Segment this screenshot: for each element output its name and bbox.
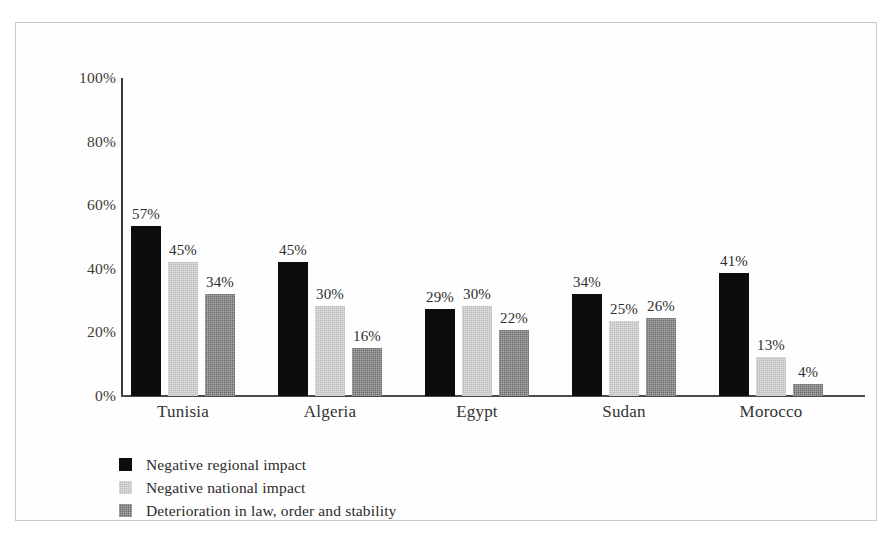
legend-item-0[interactable]: Negative regional impact (119, 453, 397, 476)
bar-value-label: 57% (132, 206, 160, 223)
category-label-tunisia: Tunisia (119, 402, 247, 422)
bar-morocco-series2[interactable]: 4% (793, 78, 823, 396)
chart-legend: Negative regional impactNegative nationa… (119, 453, 397, 522)
bar-rect (572, 294, 602, 396)
category-label-egypt: Egypt (413, 402, 541, 422)
y-tick-0: 0% (54, 387, 116, 405)
bar-algeria-series0[interactable]: 45% (278, 78, 308, 396)
chart-page: { "chart_data": { "type": "bar", "title"… (0, 0, 889, 538)
bar-sudan-series1[interactable]: 25% (609, 78, 639, 396)
legend-item-2[interactable]: Deterioration in law, order and stabilit… (119, 499, 397, 522)
bar-rect (499, 330, 529, 396)
bar-value-label: 22% (500, 310, 528, 327)
bar-sudan-series0[interactable]: 34% (572, 78, 602, 396)
y-tick-20: 20% (54, 323, 116, 341)
bar-rect (793, 384, 823, 396)
bar-value-label: 45% (279, 242, 307, 259)
bar-value-label: 29% (426, 289, 454, 306)
bar-tunisia-series2[interactable]: 34% (205, 78, 235, 396)
bar-rect (352, 348, 382, 396)
y-tick-100: 100% (54, 69, 116, 87)
legend-swatch-icon (119, 481, 132, 494)
chart-frame: 100%80%60%40%20%0% 57%45%34%45%30%16%29%… (15, 22, 877, 521)
legend-swatch-icon (119, 504, 132, 517)
bar-algeria-series2[interactable]: 16% (352, 78, 382, 396)
y-axis-tick-labels: 100%80%60%40%20%0% (44, 78, 116, 396)
bar-group-tunisia: 57%45%34% (131, 78, 272, 396)
bar-rect (609, 321, 639, 396)
legend-label: Negative regional impact (146, 456, 306, 474)
bar-rect (462, 306, 492, 396)
bar-tunisia-series0[interactable]: 57% (131, 78, 161, 396)
bar-value-label: 30% (463, 286, 491, 303)
bar-egypt-series1[interactable]: 30% (462, 78, 492, 396)
bar-value-label: 25% (610, 301, 638, 318)
bar-tunisia-series1[interactable]: 45% (168, 78, 198, 396)
bar-value-label: 13% (757, 337, 785, 354)
bar-rect (719, 273, 749, 396)
bar-rect (646, 318, 676, 396)
bar-rect (205, 294, 235, 396)
bar-rect (168, 262, 198, 397)
legend-swatch-icon (119, 458, 132, 471)
bar-value-label: 41% (720, 253, 748, 270)
bar-algeria-series1[interactable]: 30% (315, 78, 345, 396)
bar-value-label: 16% (353, 328, 381, 345)
plot-area: 57%45%34%45%30%16%29%30%22%34%25%26%41%1… (123, 78, 864, 396)
bar-rect (315, 306, 345, 396)
bar-egypt-series0[interactable]: 29% (425, 78, 455, 396)
legend-label: Deterioration in law, order and stabilit… (146, 502, 397, 520)
bar-value-label: 34% (573, 274, 601, 291)
bar-rect (425, 309, 455, 396)
bar-value-label: 4% (798, 364, 818, 381)
bar-value-label: 45% (169, 242, 197, 259)
bar-group-sudan: 34%25%26% (572, 78, 713, 396)
category-label-morocco: Morocco (707, 402, 835, 422)
y-tick-80: 80% (54, 133, 116, 151)
category-label-sudan: Sudan (560, 402, 688, 422)
bar-value-label: 30% (316, 286, 344, 303)
bar-sudan-series2[interactable]: 26% (646, 78, 676, 396)
bar-morocco-series0[interactable]: 41% (719, 78, 749, 396)
bar-rect (131, 226, 161, 396)
y-tick-60: 60% (54, 196, 116, 214)
legend-item-1[interactable]: Negative national impact (119, 476, 397, 499)
bar-value-label: 26% (647, 298, 675, 315)
category-label-algeria: Algeria (266, 402, 394, 422)
bar-egypt-series2[interactable]: 22% (499, 78, 529, 396)
bar-value-label: 34% (206, 274, 234, 291)
bar-rect (756, 357, 786, 396)
bar-group-egypt: 29%30%22% (425, 78, 566, 396)
bar-group-algeria: 45%30%16% (278, 78, 419, 396)
legend-label: Negative national impact (146, 479, 305, 497)
bar-morocco-series1[interactable]: 13% (756, 78, 786, 396)
bar-group-morocco: 41%13%4% (719, 78, 860, 396)
y-tick-40: 40% (54, 260, 116, 278)
bar-rect (278, 262, 308, 397)
